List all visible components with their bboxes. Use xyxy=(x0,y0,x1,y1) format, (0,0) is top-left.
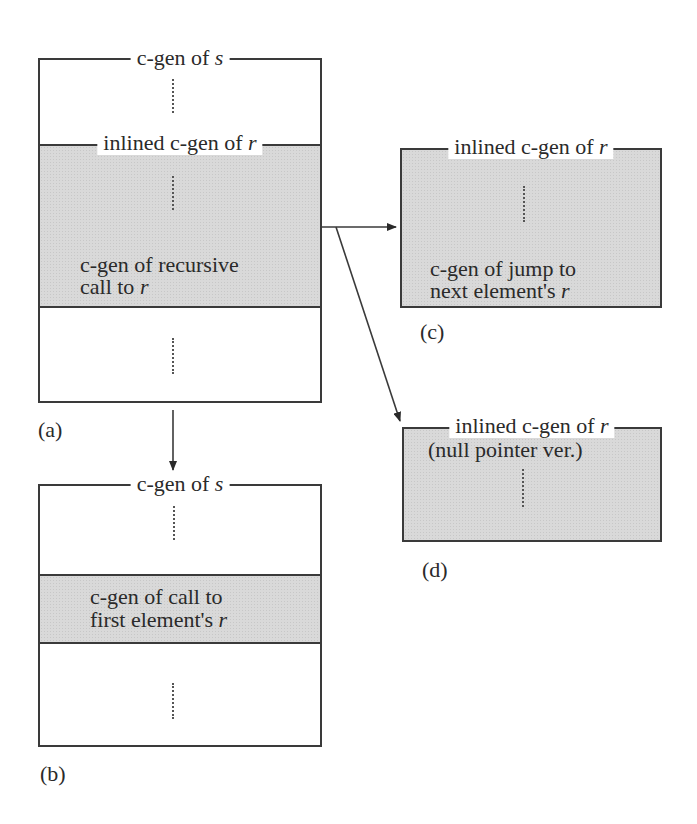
arrows-layer xyxy=(0,0,697,824)
arrow-a-to-d xyxy=(336,227,400,421)
